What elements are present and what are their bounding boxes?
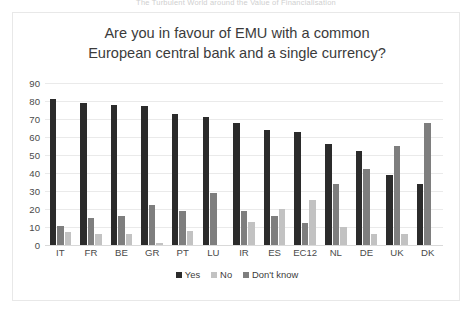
bar-ir-don-t-know (248, 222, 255, 245)
y-axis-tick-20: 20 (29, 204, 40, 215)
bar-ir-yes (233, 123, 240, 245)
chart-title: Are you in favour of EMU with a common E… (35, 23, 439, 63)
bar-dk-no (424, 123, 431, 245)
x-axis-label-es: ES (259, 247, 290, 258)
bar-uk-don-t-know (401, 234, 408, 245)
gridline-0: 0 (45, 245, 443, 246)
bar-group-ir (229, 83, 260, 245)
x-axis-label-de: DE (351, 247, 382, 258)
bar-pt-no (179, 211, 186, 245)
bar-group-uk (382, 83, 413, 245)
bar-pt-don-t-know (187, 231, 194, 245)
legend-label-yes: Yes (185, 269, 200, 280)
bar-groups (45, 83, 443, 245)
bar-ec12-don-t-know (309, 200, 316, 245)
x-axis-labels: ITFRBEGRPTLUIRESEC12NLDEUKDK (45, 247, 443, 258)
bar-fr-don-t-know (95, 234, 102, 245)
bar-nl-yes (325, 144, 332, 245)
y-axis-tick-80: 80 (29, 96, 40, 107)
bar-group-gr (137, 83, 168, 245)
y-axis-tick-70: 70 (29, 114, 40, 125)
legend-swatch-yes-icon (176, 272, 182, 278)
bar-it-no (57, 226, 64, 245)
x-axis-label-it: IT (45, 247, 76, 258)
bar-be-yes (111, 105, 118, 245)
bar-group-dk (412, 83, 443, 245)
x-axis-label-gr: GR (137, 247, 168, 258)
chart-page: The Turbulent World around the Value of … (0, 0, 472, 312)
bar-gr-don-t-know (156, 243, 163, 245)
legend-swatch-no-icon (211, 272, 217, 278)
x-axis-label-be: BE (106, 247, 137, 258)
x-axis-label-dk: DK (412, 247, 443, 258)
bar-es-yes (264, 130, 271, 245)
plot-area: 9080706050403020100 (45, 83, 443, 245)
bar-es-don-t-know (279, 209, 286, 245)
bar-it-don-t-know (65, 232, 72, 246)
bar-lu-yes (203, 117, 210, 245)
bar-it-yes (50, 99, 57, 245)
bar-lu-no (210, 193, 217, 245)
legend-item-no[interactable]: No (211, 269, 232, 280)
bar-group-fr (76, 83, 107, 245)
bar-be-don-t-know (126, 234, 133, 245)
x-axis-label-pt: PT (167, 247, 198, 258)
y-axis-tick-0: 0 (35, 240, 40, 251)
legend-label-no: No (220, 269, 232, 280)
x-axis-label-nl: NL (320, 247, 351, 258)
bar-dk-yes (417, 184, 424, 245)
bar-nl-don-t-know (340, 227, 347, 245)
bar-group-be (106, 83, 137, 245)
y-axis-tick-10: 10 (29, 222, 40, 233)
bar-ec12-no (302, 223, 309, 245)
legend-swatch-don-t-know-icon (243, 272, 249, 278)
bar-de-don-t-know (371, 234, 378, 245)
bar-uk-no (394, 146, 401, 245)
x-axis-label-uk: UK (382, 247, 413, 258)
chart-container: Are you in favour of EMU with a common E… (12, 12, 460, 301)
bar-group-ec12 (290, 83, 321, 245)
y-axis-tick-90: 90 (29, 78, 40, 89)
x-axis-label-fr: FR (76, 247, 107, 258)
bar-group-nl (320, 83, 351, 245)
bar-group-it (45, 83, 76, 245)
y-axis-tick-60: 60 (29, 132, 40, 143)
x-axis-label-lu: LU (198, 247, 229, 258)
bar-pt-yes (172, 114, 179, 245)
y-axis-tick-40: 40 (29, 168, 40, 179)
bar-fr-yes (80, 103, 87, 245)
bar-group-de (351, 83, 382, 245)
bar-nl-no (333, 184, 340, 245)
bar-ec12-yes (294, 132, 301, 245)
bar-gr-yes (141, 106, 148, 245)
bar-de-yes (356, 151, 363, 245)
bar-group-es (259, 83, 290, 245)
chart-title-line-2: European central bank and a single curre… (35, 43, 439, 63)
chart-legend: YesNoDon't know (13, 269, 461, 280)
legend-item-don-t-know[interactable]: Don't know (243, 269, 298, 280)
x-axis-label-ir: IR (229, 247, 260, 258)
chart-title-line-1: Are you in favour of EMU with a common (35, 23, 439, 43)
bar-group-lu (198, 83, 229, 245)
x-axis-label-ec12: EC12 (290, 247, 321, 258)
bar-ir-no (241, 211, 248, 245)
bar-uk-yes (386, 175, 393, 245)
bar-es-no (271, 216, 278, 245)
legend-label-don-t-know: Don't know (252, 269, 298, 280)
y-axis-tick-50: 50 (29, 150, 40, 161)
running-header-text: The Turbulent World around the Value of … (0, 0, 472, 7)
bar-de-no (363, 169, 370, 245)
bar-fr-no (88, 218, 95, 245)
bar-group-pt (167, 83, 198, 245)
legend-item-yes[interactable]: Yes (176, 269, 200, 280)
bar-be-no (118, 216, 125, 245)
bar-gr-no (149, 205, 156, 245)
y-axis-tick-30: 30 (29, 186, 40, 197)
